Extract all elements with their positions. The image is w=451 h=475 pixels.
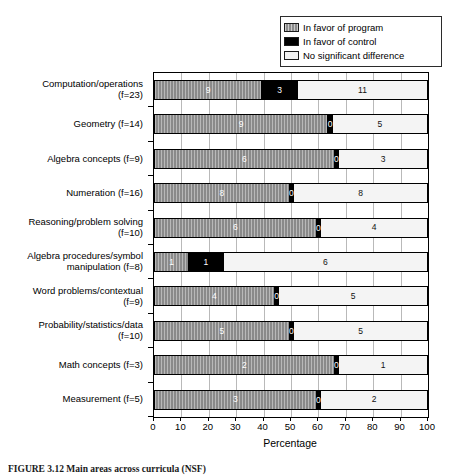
x-axis-tick-label: 40 bbox=[257, 422, 268, 432]
segment-value-label: 1 bbox=[381, 361, 386, 370]
category-label: Measurement (f=5) bbox=[0, 393, 148, 404]
x-axis-tick-label: 70 bbox=[340, 422, 351, 432]
segment-value-label: 8 bbox=[358, 189, 363, 198]
bar-row: 9311 bbox=[154, 73, 428, 107]
x-axis-tick-label: 50 bbox=[285, 422, 296, 432]
figure-container: In favor of program In favor of control … bbox=[0, 0, 451, 475]
bar-segment-program: 8 bbox=[154, 183, 289, 203]
bar-row: 201 bbox=[154, 348, 428, 382]
category-label: Algebra concepts (f=9) bbox=[0, 153, 148, 164]
category-label: Word problems/contextual(f=9) bbox=[0, 285, 148, 307]
bar-segment-nodiff: 1 bbox=[338, 355, 428, 375]
category-label: Reasoning/problem solving(f=10) bbox=[0, 216, 148, 238]
segment-value-label: 4 bbox=[372, 223, 377, 232]
stacked-bar[interactable]: 9311 bbox=[154, 80, 428, 100]
bar-segment-nodiff: 3 bbox=[338, 149, 428, 169]
stacked-bar[interactable]: 905 bbox=[154, 114, 428, 134]
bar-segment-program: 5 bbox=[154, 321, 289, 341]
segment-value-label: 4 bbox=[212, 292, 217, 301]
segment-value-label: 11 bbox=[358, 86, 367, 95]
bar-row: 808 bbox=[154, 176, 428, 210]
bar-row: 405 bbox=[154, 279, 428, 313]
bar-segment-program: 9 bbox=[154, 114, 327, 134]
segment-value-label: 3 bbox=[277, 86, 282, 95]
category-axis-labels: Computation/operations(f=23)Geometry (f=… bbox=[0, 72, 148, 416]
bar-segment-nodiff: 5 bbox=[278, 286, 428, 306]
stacked-bar[interactable]: 808 bbox=[154, 183, 428, 203]
legend-label-control: In favor of control bbox=[303, 37, 376, 47]
bar-segment-nodiff: 6 bbox=[223, 252, 429, 272]
bar-segment-program: 4 bbox=[154, 286, 274, 306]
hatched-gray-swatch-icon bbox=[284, 23, 299, 32]
segment-value-label: 6 bbox=[323, 258, 328, 267]
segment-value-label: 6 bbox=[242, 155, 247, 164]
x-axis-tick-label: 100 bbox=[419, 422, 435, 432]
stacked-bar[interactable]: 604 bbox=[154, 218, 428, 238]
legend-item-program: In favor of program bbox=[284, 21, 437, 34]
stacked-bar[interactable]: 603 bbox=[154, 149, 428, 169]
black-swatch-icon bbox=[284, 37, 299, 46]
legend-label-program: In favor of program bbox=[303, 23, 383, 33]
segment-value-label: 0 bbox=[316, 395, 321, 404]
segment-value-label: 6 bbox=[233, 223, 238, 232]
bar-rows: 9311905603808604116405505201302 bbox=[154, 73, 428, 417]
bar-segment-nodiff: 4 bbox=[320, 218, 428, 238]
stacked-bar[interactable]: 116 bbox=[154, 252, 428, 272]
bar-segment-nodiff: 5 bbox=[332, 114, 428, 134]
x-axis-tick-label: 90 bbox=[394, 422, 405, 432]
bar-segment-program: 3 bbox=[154, 390, 316, 410]
bar-segment-nodiff: 11 bbox=[297, 80, 428, 100]
segment-value-label: 0 bbox=[316, 223, 321, 232]
chart-legend: In favor of program In favor of control … bbox=[280, 16, 442, 67]
bar-row: 116 bbox=[154, 245, 428, 279]
segment-value-label: 1 bbox=[169, 258, 174, 267]
segment-value-label: 3 bbox=[233, 395, 238, 404]
category-label: Numeration (f=16) bbox=[0, 187, 148, 198]
segment-value-label: 0 bbox=[289, 327, 294, 336]
bar-row: 604 bbox=[154, 211, 428, 245]
segment-value-label: 1 bbox=[204, 258, 209, 267]
x-axis-tick-label: 20 bbox=[203, 422, 214, 432]
segment-value-label: 2 bbox=[372, 395, 377, 404]
white-swatch-icon bbox=[284, 51, 299, 60]
segment-value-label: 9 bbox=[239, 120, 244, 129]
bar-segment-program: 2 bbox=[154, 355, 334, 375]
x-axis-tick-label: 60 bbox=[312, 422, 323, 432]
category-label: Computation/operations(f=23) bbox=[0, 78, 148, 100]
bar-segment-control: 1 bbox=[188, 252, 222, 272]
bar-segment-program: 6 bbox=[154, 149, 334, 169]
segment-value-label: 0 bbox=[274, 292, 279, 301]
legend-item-control: In favor of control bbox=[284, 35, 437, 48]
plot-area: 9311905603808604116405505201302 bbox=[153, 72, 429, 418]
bar-row: 302 bbox=[154, 383, 428, 417]
segment-value-label: 5 bbox=[220, 327, 225, 336]
legend-label-nodiff: No significant difference bbox=[303, 51, 404, 61]
segment-value-label: 5 bbox=[377, 120, 382, 129]
bar-segment-program: 6 bbox=[154, 218, 316, 238]
x-axis-title: Percentage bbox=[153, 437, 427, 449]
segment-value-label: 0 bbox=[289, 189, 294, 198]
stacked-bar[interactable]: 505 bbox=[154, 321, 428, 341]
x-axis-tick-label: 10 bbox=[175, 422, 186, 432]
stacked-bar[interactable]: 302 bbox=[154, 390, 428, 410]
bar-segment-control: 3 bbox=[261, 80, 297, 100]
x-axis-tick-label: 80 bbox=[367, 422, 378, 432]
bar-segment-program: 1 bbox=[154, 252, 188, 272]
figure-caption: FIGURE 3.12 Main areas across curricula … bbox=[8, 464, 448, 475]
segment-value-label: 3 bbox=[381, 155, 386, 164]
category-label: Math concepts (f=3) bbox=[0, 359, 148, 370]
segment-value-label: 5 bbox=[358, 327, 363, 336]
segment-value-label: 0 bbox=[328, 120, 333, 129]
stacked-bar[interactable]: 201 bbox=[154, 355, 428, 375]
segment-value-label: 5 bbox=[351, 292, 356, 301]
segment-value-label: 0 bbox=[334, 361, 339, 370]
segment-value-label: 0 bbox=[334, 155, 339, 164]
bar-segment-nodiff: 2 bbox=[320, 390, 428, 410]
category-label: Algebra procedures/symbolmanipulation (f… bbox=[0, 250, 148, 272]
bar-row: 905 bbox=[154, 107, 428, 141]
stacked-bar[interactable]: 405 bbox=[154, 286, 428, 306]
bar-segment-nodiff: 5 bbox=[293, 321, 428, 341]
category-label: Probability/statistics/data(f=10) bbox=[0, 319, 148, 341]
x-axis-tick-label: 30 bbox=[230, 422, 241, 432]
bar-segment-nodiff: 8 bbox=[293, 183, 428, 203]
